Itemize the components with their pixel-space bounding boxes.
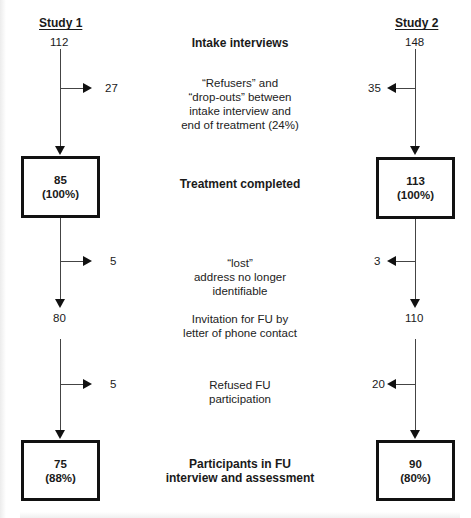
arrow-down-icon [410, 146, 420, 155]
stage-dropouts-label: “Refusers” and “drop-outs” between intak… [165, 76, 315, 132]
study2-participants-box: 90 (80%) [376, 440, 455, 501]
arrow-right-icon [83, 83, 92, 93]
stage-lost-line-2: address no longer [170, 270, 310, 284]
study2-dropout-branch [396, 88, 415, 89]
study2-participants-pct: (80%) [400, 471, 431, 485]
stage-intake-label: Intake interviews [180, 36, 300, 50]
study2-refused-branch [396, 384, 415, 385]
arrow-left-icon [387, 256, 396, 266]
stage-participants-label: Participants in FU interview and assessm… [150, 457, 330, 485]
study2-refused-count: 20 [372, 378, 385, 390]
stage-dropouts-line-2: “drop-outs” between [165, 90, 315, 104]
study2-flow-line-1 [415, 49, 416, 146]
study1-flow-line-3 [60, 339, 61, 431]
study2-dropouts-count: 35 [368, 82, 381, 94]
stage-dropouts-line-4: end of treatment (24%) [165, 118, 315, 132]
arrow-down-icon [55, 430, 65, 439]
study2-treatment-count: 113 [406, 174, 425, 188]
study2-lost-branch [396, 261, 415, 262]
study1-treatment-count: 85 [54, 173, 67, 187]
study1-invited-count: 80 [53, 312, 66, 324]
study1-refused-branch [60, 384, 83, 385]
study2-invited-count: 110 [405, 312, 423, 324]
stage-participants-line-1: Participants in FU [150, 457, 330, 471]
stage-dropouts-line-1: “Refusers” and [165, 76, 315, 90]
page-edge-shadow [0, 0, 6, 518]
arrow-down-icon [410, 299, 420, 308]
study1-refused-count: 5 [110, 378, 116, 390]
study1-dropout-branch [60, 88, 83, 89]
study2-flow-line-2 [415, 219, 416, 299]
stage-lost-label: “lost” address no longer identifiable [170, 256, 310, 298]
study1-participants-box: 75 (88%) [21, 440, 100, 501]
study2-intake-count: 148 [405, 36, 424, 48]
study1-dropouts-count: 27 [105, 82, 118, 94]
study1-participants-pct: (88%) [45, 471, 76, 485]
stage-refused-label: Refused FU participation [180, 378, 300, 406]
arrow-left-icon [387, 379, 396, 389]
study1-intake-count: 112 [50, 36, 68, 48]
study2-header: Study 2 [395, 16, 438, 30]
study1-lost-count: 5 [110, 255, 116, 267]
study1-treatment-box: 85 (100%) [21, 156, 100, 218]
stage-refused-line-1: Refused FU [180, 378, 300, 392]
stage-treatment-label: Treatment completed [165, 177, 315, 191]
arrow-right-icon [83, 256, 92, 266]
stage-refused-line-2: participation [180, 392, 300, 406]
study1-flow-line-2 [60, 218, 61, 299]
study2-treatment-box: 113 (100%) [376, 157, 455, 219]
stage-invitation-label: Invitation for FU by letter of phone con… [165, 312, 315, 340]
study2-flow-line-3 [415, 339, 416, 431]
arrow-down-icon [55, 146, 65, 155]
arrow-down-icon [55, 299, 65, 308]
study2-lost-count: 3 [374, 255, 380, 267]
stage-lost-line-3: identifiable [170, 284, 310, 298]
study2-participants-count: 90 [409, 457, 422, 471]
stage-dropouts-line-3: intake interview and [165, 104, 315, 118]
study1-header: Study 1 [39, 16, 82, 30]
study1-participants-count: 75 [54, 457, 67, 471]
arrow-right-icon [83, 379, 92, 389]
stage-invitation-line-1: Invitation for FU by [165, 312, 315, 326]
stage-invitation-line-2: letter of phone contact [165, 326, 315, 340]
study2-treatment-pct: (100%) [397, 188, 434, 202]
study1-flow-line-1 [60, 49, 61, 146]
study1-treatment-pct: (100%) [42, 187, 79, 201]
arrow-down-icon [410, 430, 420, 439]
arrow-left-icon [387, 83, 396, 93]
cut-off-caption [20, 512, 460, 518]
stage-participants-line-2: interview and assessment [150, 471, 330, 485]
stage-lost-line-1: “lost” [170, 256, 310, 270]
study1-lost-branch [60, 261, 83, 262]
